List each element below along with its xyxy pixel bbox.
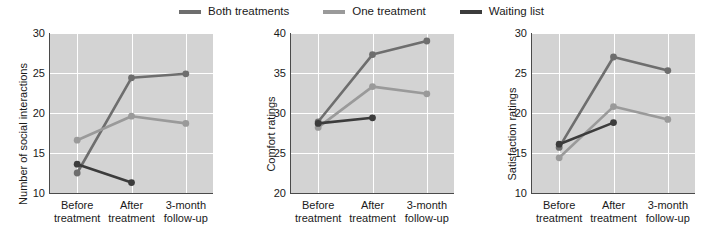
x-axis-tick-label-line: 3-month (405, 199, 449, 212)
x-axis-tick-label-line: follow-up (405, 212, 449, 225)
data-point-marker (182, 120, 189, 127)
y-axis-tick-label: 35 (274, 68, 286, 79)
x-axis-tick-label-line: treatment (349, 212, 395, 225)
y-axis-label: Number of social interactions (18, 49, 29, 219)
y-axis-tick-label: 25 (33, 68, 45, 79)
data-point-marker (610, 119, 617, 126)
x-axis-tick-label: Beforetreatment (536, 199, 582, 225)
data-point-marker (315, 120, 322, 127)
data-point-marker (369, 51, 376, 58)
data-point-marker (369, 114, 376, 121)
data-point-marker (423, 90, 430, 97)
x-axis-tick-label-line: After (349, 199, 395, 212)
x-axis-tick-label-line: treatment (536, 212, 582, 225)
x-axis-tick-label: Aftertreatment (349, 199, 395, 225)
series-line (77, 116, 186, 140)
x-axis-tick-label-line: follow-up (646, 212, 690, 225)
series-layer (291, 33, 454, 193)
x-axis-tick-label-line: Before (295, 199, 341, 212)
x-axis-line (531, 193, 695, 194)
chart-panel-social-interactions: Number of social interactions1015202530B… (0, 24, 241, 243)
x-axis-tick-label-line: Before (536, 199, 582, 212)
y-axis-tick-label: 20 (515, 108, 527, 119)
plot-area: 1015202530BeforetreatmentAftertreatment3… (50, 33, 213, 193)
x-axis-tick-label: 3-monthfollow-up (405, 199, 449, 225)
data-point-marker (74, 170, 81, 177)
x-axis-tick-label-line: follow-up (164, 212, 208, 225)
y-axis-tick-label: 20 (274, 188, 286, 199)
x-axis-line (290, 193, 454, 194)
chart-panel-comfort-ratings: Comfort ratings2025303540Beforetreatment… (241, 24, 482, 243)
data-point-marker (610, 103, 617, 110)
x-axis-tick-label-line: After (108, 199, 154, 212)
y-axis-tick-label: 10 (33, 188, 45, 199)
y-axis-tick-label: 30 (515, 28, 527, 39)
x-axis-tick-label: Beforetreatment (54, 199, 100, 225)
y-axis-tick-label: 15 (33, 148, 45, 159)
series-line (77, 164, 131, 182)
y-axis-tick-label: 25 (515, 68, 527, 79)
x-axis-tick-label: Beforetreatment (295, 199, 341, 225)
x-axis-tick-label-line: treatment (108, 212, 154, 225)
x-axis-tick-label-line: 3-month (164, 199, 208, 212)
data-point-marker (74, 161, 81, 168)
chart-legend: Both treatmentsOne treatmentWaiting list (0, 0, 723, 24)
x-axis-tick-label: 3-monthfollow-up (164, 199, 208, 225)
legend-entry-label: Both treatments (208, 6, 289, 18)
data-point-marker (128, 74, 135, 81)
data-point-marker (369, 83, 376, 90)
y-axis-tick-label: 20 (33, 108, 45, 119)
data-point-marker (128, 179, 135, 186)
plot-area: 1015202530BeforetreatmentAftertreatment3… (532, 33, 695, 193)
line-swatch-icon (179, 10, 201, 14)
x-axis-tick-label: Aftertreatment (108, 199, 154, 225)
y-axis-tick-label: 40 (274, 28, 286, 39)
x-axis-tick-label-line: treatment (590, 212, 636, 225)
x-axis-tick-label: Aftertreatment (590, 199, 636, 225)
y-axis-tick-label: 15 (515, 148, 527, 159)
data-point-marker (74, 137, 81, 144)
series-line (559, 107, 668, 158)
x-axis-line (49, 193, 213, 194)
data-point-marker (128, 113, 135, 120)
x-axis-tick-label-line: treatment (295, 212, 341, 225)
chart-panel-satisfaction-ratings: Satisfaction ratings1015202530Beforetrea… (482, 24, 723, 243)
data-point-marker (182, 70, 189, 77)
data-point-marker (664, 67, 671, 74)
line-swatch-icon (323, 10, 345, 14)
series-layer (50, 33, 213, 193)
data-point-marker (556, 154, 563, 161)
plot-area: 2025303540BeforetreatmentAftertreatment3… (291, 33, 454, 193)
legend-entry[interactable]: One treatment (323, 6, 426, 18)
line-swatch-icon (460, 10, 482, 14)
x-axis-tick-label-line: treatment (54, 212, 100, 225)
legend-entry[interactable]: Waiting list (460, 6, 544, 18)
legend-entry-label: One treatment (352, 6, 426, 18)
x-axis-tick-label: 3-monthfollow-up (646, 199, 690, 225)
y-axis-tick-label: 10 (515, 188, 527, 199)
series-layer (532, 33, 695, 193)
x-axis-tick-label-line: 3-month (646, 199, 690, 212)
series-line (559, 57, 668, 147)
data-point-marker (423, 38, 430, 45)
data-point-marker (664, 116, 671, 123)
x-axis-tick-label-line: Before (54, 199, 100, 212)
legend-entry-label: Waiting list (489, 6, 544, 18)
data-point-marker (610, 54, 617, 61)
figure-three-panel-line-chart: Both treatmentsOne treatmentWaiting list… (0, 0, 723, 243)
x-axis-tick-label-line: After (590, 199, 636, 212)
data-point-marker (556, 141, 563, 148)
series-line (77, 74, 186, 173)
legend-entry[interactable]: Both treatments (179, 6, 289, 18)
y-axis-tick-label: 30 (33, 28, 45, 39)
y-axis-tick-label: 25 (274, 148, 286, 159)
y-axis-tick-label: 30 (274, 108, 286, 119)
